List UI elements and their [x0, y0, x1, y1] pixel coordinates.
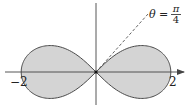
theta-fraction-numerator: π	[172, 3, 180, 14]
theta-label: θ =	[149, 8, 168, 21]
x-tick-label-neg2: −2	[10, 75, 28, 89]
theta-fraction-denominator: 4	[173, 14, 179, 25]
x-tick-label-2: 2	[169, 75, 177, 89]
origin-point	[94, 70, 97, 73]
lemniscate-diagram: −2 2 θ = π 4	[0, 0, 188, 107]
